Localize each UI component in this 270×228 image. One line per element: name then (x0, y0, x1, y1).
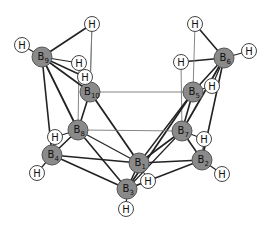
boron-atom-b8: B8 (68, 120, 88, 140)
atom-label: H (177, 57, 185, 68)
bonds-layer (22, 24, 249, 209)
hydrogen-atom-h7: H (197, 132, 212, 147)
boron-atom-b9: B9 (32, 47, 52, 67)
atom-label: H (88, 19, 96, 30)
atom-label: H (200, 134, 208, 145)
atom-label: H (81, 72, 89, 83)
hydrogen-atom-h8: H (48, 130, 63, 145)
atom-label: H (75, 58, 83, 69)
hydrogen-atom-h5: H (205, 79, 220, 94)
boron-atom-b1: B1 (129, 153, 149, 173)
hydrogen-atom-h9a: H (15, 38, 30, 53)
atom-label: H (144, 176, 152, 187)
atoms-layer: B1B2B3B4B5B6B7B8B9B10HHHHHHHHHHHHHH (15, 17, 257, 217)
boron-atom-b7: B7 (172, 121, 192, 141)
bond-b4-b3 (52, 155, 127, 189)
boron-atom-b6: B6 (214, 48, 234, 68)
hydrogen-atom-h3: H (119, 202, 134, 217)
atom-label: H (191, 19, 199, 30)
atom-label: H (218, 169, 226, 180)
molecule-canvas: B1B2B3B4B5B6B7B8B9B10HHHHHHHHHHHHHH (0, 0, 270, 228)
atom-label: H (245, 46, 253, 57)
hydrogen-atom-h6c: H (174, 55, 189, 70)
hydrogen-atom-h4: H (30, 166, 45, 181)
molecule-diagram: B1B2B3B4B5B6B7B8B9B10HHHHHHHHHHHHHH (0, 0, 270, 228)
atom-label: H (51, 132, 59, 143)
hydrogen-atom-h9c: H (72, 56, 87, 71)
boron-atom-b10: B10 (80, 82, 100, 102)
hydrogen-atom-h10: H (78, 70, 93, 85)
boron-atom-b2: B2 (192, 150, 212, 170)
boron-atom-b4: B4 (42, 145, 62, 165)
atom-label: H (33, 168, 41, 179)
boron-atom-b5: B5 (183, 82, 203, 102)
bond-b9-b8 (42, 57, 78, 130)
atom-label: H (122, 204, 130, 215)
hydrogen-atom-h6b: H (242, 44, 257, 59)
hydrogen-atom-h9b: H (85, 17, 100, 32)
atom-label: H (208, 81, 216, 92)
hydrogen-atom-h1: H (141, 174, 156, 189)
boron-atom-b3: B3 (117, 179, 137, 199)
hydrogen-atom-h6a: H (188, 17, 203, 32)
hydrogen-atom-h2: H (215, 167, 230, 182)
atom-label: H (18, 40, 26, 51)
